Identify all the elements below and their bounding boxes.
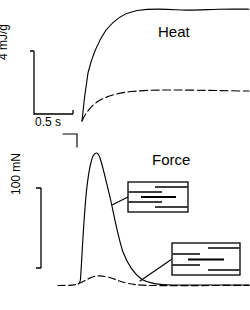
sarcomere-inset-reduced-overlap (172, 243, 240, 275)
heat-scale-y-label: 4 mJ/g (0, 24, 9, 60)
force-trace-reduced-overlap (58, 276, 249, 286)
heat-scale-x-label: 0.5 s (35, 116, 61, 128)
muscle-heat-force-figure (0, 0, 250, 310)
leader-line-reduced-overlap (140, 259, 172, 281)
force-scale-y-label: 100 mN (10, 153, 22, 195)
leader-line-full-overlap (112, 197, 128, 205)
heat-scale-bar (30, 51, 73, 114)
sarcomere-inset-full-overlap (128, 182, 188, 212)
stimulus-artifact (63, 134, 77, 147)
force-scale-bar (36, 188, 41, 268)
heat-panel-label: Heat (158, 24, 190, 39)
heat-panel (30, 9, 249, 121)
force-panel-label: Force (152, 152, 190, 167)
heat-trace-reduced-overlap (82, 90, 249, 121)
